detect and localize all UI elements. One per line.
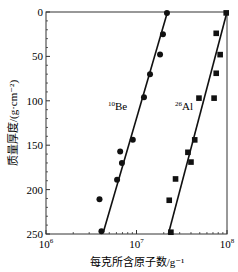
point-10Be	[98, 228, 104, 234]
series-label-26Al: 26Al	[175, 100, 193, 112]
y-tick-label: 0	[38, 6, 44, 18]
data-points	[96, 10, 229, 235]
point-10Be	[147, 71, 153, 77]
y-tick-label: 150	[27, 139, 44, 151]
series-labels: 10Be26Al	[108, 100, 193, 112]
point-10Be	[130, 137, 136, 143]
point-10Be	[119, 160, 125, 166]
point-26Al	[188, 159, 194, 165]
point-26Al	[223, 10, 229, 16]
x-axis: 106107108	[39, 230, 235, 250]
point-26Al	[168, 229, 174, 235]
point-10Be	[96, 196, 102, 202]
point-10Be	[160, 31, 166, 37]
x-tick-label: 107	[129, 237, 144, 250]
series-label-10Be: 10Be	[108, 100, 127, 112]
point-10Be	[157, 52, 163, 58]
point-10Be	[114, 177, 120, 183]
point-26Al	[166, 197, 172, 203]
y-tick-label: 200	[27, 184, 44, 196]
point-10Be	[117, 148, 123, 154]
point-26Al	[213, 70, 219, 76]
point-26Al	[211, 95, 217, 101]
fit-lines	[103, 12, 227, 234]
plot-frame	[46, 12, 227, 234]
point-10Be	[141, 94, 147, 100]
point-10Be	[164, 10, 170, 16]
point-26Al	[192, 137, 198, 143]
chart: 050100150200250 106107108 10Be26Al 每克所含原…	[0, 0, 238, 272]
fit-line-26Al	[168, 12, 227, 234]
x-tick-label: 106	[39, 237, 54, 250]
point-26Al	[196, 95, 202, 101]
point-26Al	[213, 31, 219, 37]
x-tick-label: 108	[220, 237, 235, 250]
point-26Al	[173, 176, 179, 182]
fit-line-10Be	[103, 12, 167, 232]
point-26Al	[185, 150, 191, 156]
point-26Al	[217, 52, 223, 58]
y-tick-label: 100	[27, 95, 44, 107]
y-tick-label: 50	[32, 50, 44, 62]
x-axis-title: 每克所含原子数/g⁻¹	[90, 255, 185, 268]
y-axis-title: 质量厚度/(g·cm⁻²)	[6, 80, 20, 166]
